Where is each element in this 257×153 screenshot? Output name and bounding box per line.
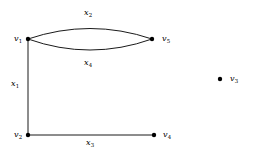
graph-figure: v1 v2 v3 v4 v5 x1 x2 x3 x4 bbox=[0, 0, 257, 153]
vertices-group bbox=[26, 37, 222, 137]
vertex-label-v3: v3 bbox=[230, 75, 238, 83]
graph-canvas bbox=[0, 0, 257, 153]
edge-label-x3: x3 bbox=[86, 139, 94, 147]
vertex-label-v4: v4 bbox=[163, 131, 171, 139]
edge-label-x4: x4 bbox=[84, 59, 92, 67]
edge-label-x2: x2 bbox=[84, 9, 92, 17]
edge-x4 bbox=[28, 39, 152, 50]
vertex-label-v2: v2 bbox=[14, 131, 22, 139]
vertex-dot-v5 bbox=[150, 37, 154, 41]
edges-group bbox=[28, 29, 154, 136]
vertex-dot-v4 bbox=[152, 133, 156, 137]
vertex-dot-v3 bbox=[218, 77, 222, 81]
vertex-label-v1: v1 bbox=[14, 35, 22, 43]
edge-x2 bbox=[28, 29, 152, 40]
vertex-label-v5: v5 bbox=[162, 35, 170, 43]
edge-label-x1: x1 bbox=[11, 80, 19, 88]
vertex-dot-v2 bbox=[26, 133, 30, 137]
vertex-dot-v1 bbox=[26, 37, 30, 41]
